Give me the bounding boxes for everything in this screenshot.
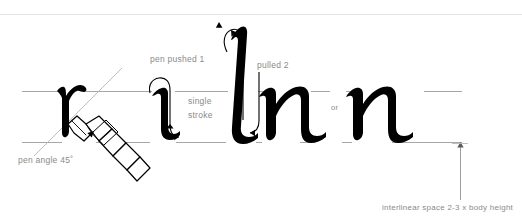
label-pulled: pulled 2 bbox=[257, 60, 289, 70]
label-pen-pushed: pen pushed 1 bbox=[150, 54, 205, 64]
label-or: or bbox=[331, 103, 338, 112]
diagram-artwork bbox=[0, 0, 522, 217]
calligraphy-diagram: pen pushed 1 pulled 2 single stroke or p… bbox=[0, 0, 522, 217]
interlinear-arrowhead-up bbox=[457, 142, 463, 147]
label-pen-angle: pen angle 45˚ bbox=[18, 155, 73, 165]
interlinear-measure bbox=[452, 142, 468, 200]
label-single: single bbox=[188, 96, 212, 106]
letter-l-push-arrow-tip bbox=[216, 22, 224, 30]
letter-l-pull-arrowhead bbox=[250, 130, 255, 136]
label-interlinear-space: interlinear space 2-3 x body height bbox=[382, 203, 513, 212]
letter-n-2 bbox=[346, 86, 413, 143]
letter-l-pull-arrow bbox=[250, 72, 259, 133]
letter-i bbox=[152, 88, 180, 140]
label-stroke: stroke bbox=[188, 110, 213, 120]
letter-n-1 bbox=[259, 86, 326, 143]
pen-illustration bbox=[68, 116, 150, 181]
letter-l bbox=[231, 26, 258, 144]
